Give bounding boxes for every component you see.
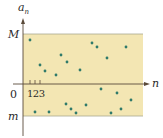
sequence-point bbox=[85, 104, 88, 107]
x-axis-arrow-icon bbox=[144, 82, 150, 86]
lower-bound-label: m bbox=[8, 111, 18, 122]
sequence-point bbox=[39, 64, 42, 67]
sequence-point bbox=[55, 74, 58, 77]
x-axis-label: n bbox=[152, 78, 159, 89]
sequence-point bbox=[96, 46, 99, 49]
sequence-point bbox=[60, 54, 63, 57]
sequence-point bbox=[65, 103, 68, 106]
sequence-point bbox=[106, 57, 109, 60]
sequence-point bbox=[44, 70, 47, 73]
sequence-point bbox=[91, 42, 94, 45]
sequence-point bbox=[66, 61, 69, 64]
sequence-point bbox=[100, 88, 103, 91]
sequence-point bbox=[116, 92, 119, 95]
tick-labels: 123 bbox=[27, 89, 45, 99]
sequence-point bbox=[75, 112, 78, 115]
y-axis-label: an bbox=[18, 2, 29, 16]
y-axis-arrow-icon bbox=[21, 18, 25, 24]
sequence-point bbox=[130, 99, 133, 102]
sequence-point bbox=[79, 69, 82, 72]
sequence-point bbox=[34, 111, 37, 114]
sequence-point bbox=[70, 108, 73, 111]
sequence-point bbox=[29, 39, 32, 42]
sequence-point bbox=[120, 108, 123, 111]
sequence-point bbox=[110, 112, 113, 115]
sequence-point bbox=[125, 46, 128, 49]
sequence-point bbox=[48, 111, 51, 114]
bounded-sequence-diagram bbox=[0, 0, 163, 138]
origin-label: 0 bbox=[10, 89, 17, 100]
upper-bound-label: M bbox=[8, 29, 19, 40]
